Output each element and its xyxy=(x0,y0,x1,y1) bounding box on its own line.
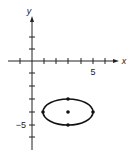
x-tick-label-5: 5 xyxy=(90,67,95,77)
ellipse-points xyxy=(41,97,95,127)
x-axis-arrow-icon xyxy=(113,59,119,63)
y-tick-label-minus-5: −5 xyxy=(16,120,26,130)
center-point xyxy=(66,110,70,114)
covertex-bottom xyxy=(66,123,70,127)
vertex-left xyxy=(41,110,45,114)
y-axis-label: y xyxy=(26,6,32,16)
vertex-right xyxy=(91,110,95,114)
ellipse-chart: y x 5 −5 xyxy=(0,0,134,154)
y-axis-arrow-icon xyxy=(30,16,34,22)
x-axis-label: x xyxy=(121,56,127,66)
covertex-top xyxy=(66,97,70,101)
